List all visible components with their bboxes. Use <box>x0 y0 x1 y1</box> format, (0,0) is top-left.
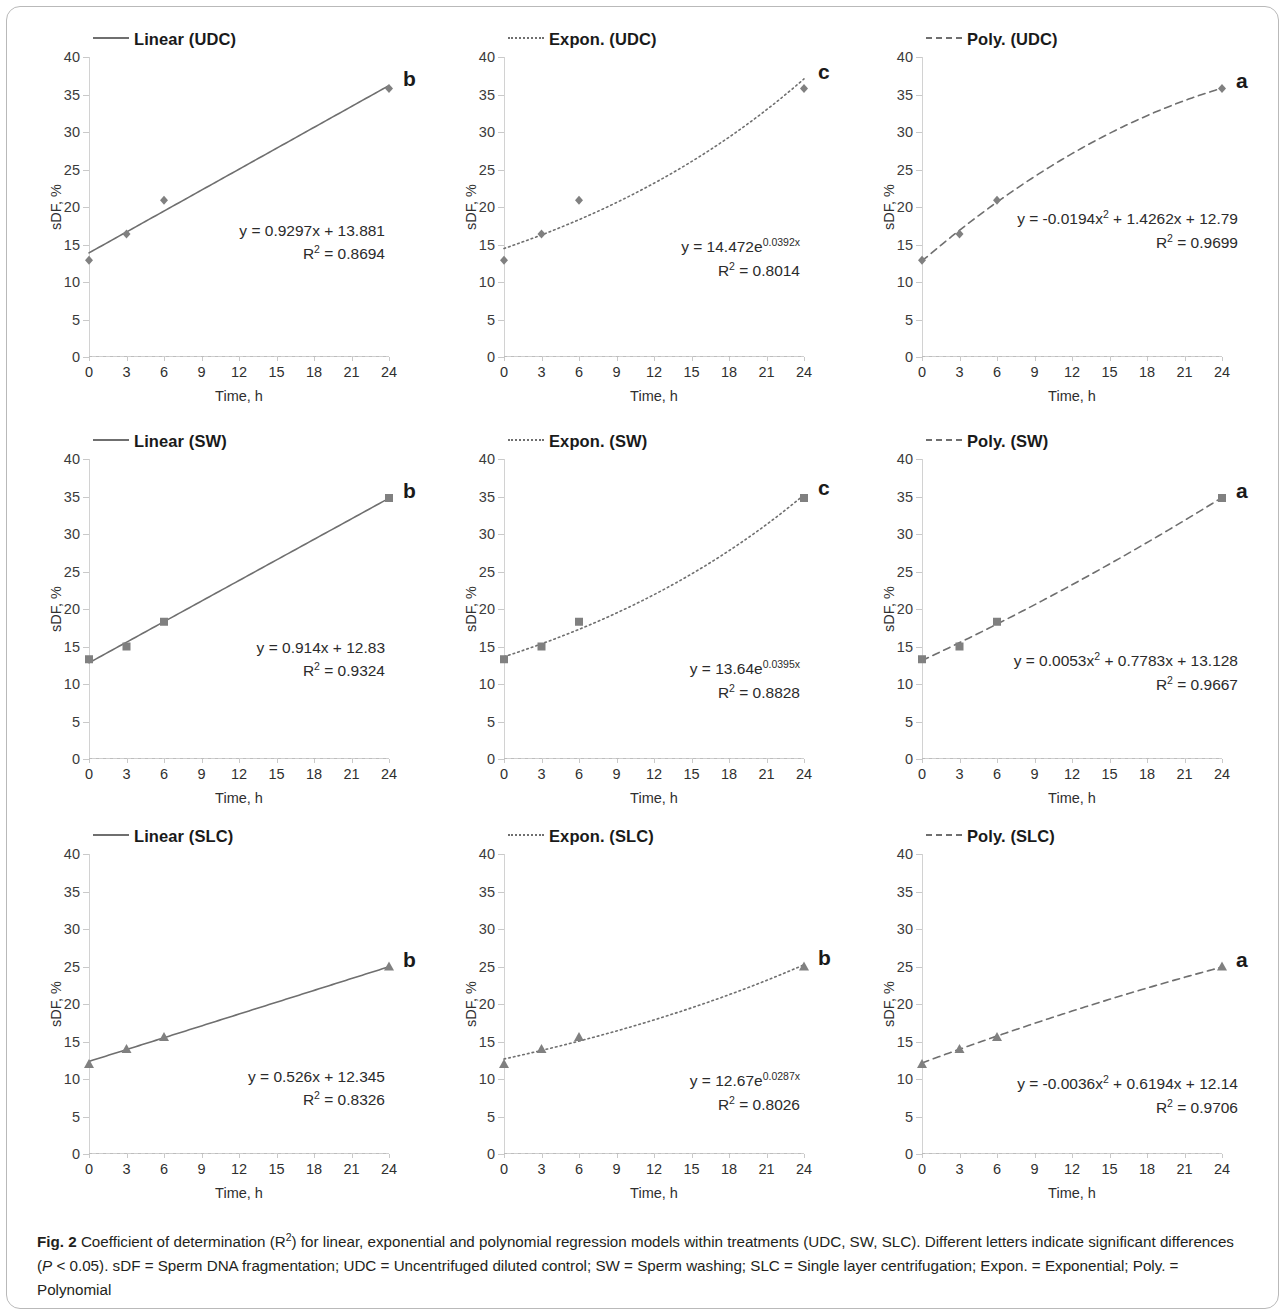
x-axis-tick <box>277 759 278 763</box>
x-axis-tick-label: 9 <box>1030 766 1038 782</box>
y-axis-tick-label: 0 <box>487 1146 495 1162</box>
legend-line-swatch-icon <box>508 439 544 441</box>
x-axis-tick <box>1222 1154 1223 1158</box>
x-axis-tick <box>277 357 278 361</box>
y-axis-tick-label: 35 <box>479 489 495 505</box>
x-axis-tick <box>654 759 655 763</box>
x-axis-tick <box>804 357 805 361</box>
y-axis-tick-label: 20 <box>479 199 495 215</box>
x-axis-tick <box>542 357 543 361</box>
x-axis-tick-label: 0 <box>85 364 93 380</box>
x-axis-tick-label: 21 <box>758 766 774 782</box>
x-axis-tick <box>692 1154 693 1158</box>
y-axis-tick-label: 5 <box>905 1109 913 1125</box>
x-axis-tick-label: 15 <box>268 1161 284 1177</box>
x-axis-tick-label: 12 <box>1064 766 1080 782</box>
legend-line-swatch-icon <box>508 834 544 836</box>
x-axis-tick <box>579 759 580 763</box>
y-axis-tick-label: 10 <box>64 1071 80 1087</box>
x-axis-tick-label: 21 <box>343 766 359 782</box>
plot-area-expon-sw: 403530252015105003691215182124Time, hsDF… <box>504 459 804 759</box>
y-axis-tick-label: 40 <box>64 846 80 862</box>
x-axis-tick <box>89 759 90 763</box>
x-axis-tick-label: 3 <box>537 1161 545 1177</box>
y-axis-tick-label: 5 <box>72 1109 80 1125</box>
plot-area-expon-slc: 403530252015105003691215182124Time, hsDF… <box>504 854 804 1154</box>
x-axis-tick-label: 18 <box>721 766 737 782</box>
y-axis-tick-label: 5 <box>72 312 80 328</box>
r-squared-line: R2 = 0.9667 <box>1014 673 1238 697</box>
legend-poly-udc: Poly. (UDC) <box>926 29 1058 49</box>
x-axis-tick <box>804 759 805 763</box>
y-axis-title: sDF, % <box>48 981 64 1027</box>
x-axis-tick-label: 21 <box>758 1161 774 1177</box>
x-axis-tick <box>389 357 390 361</box>
x-axis-tick-label: 12 <box>646 1161 662 1177</box>
significance-letter: b <box>403 948 416 972</box>
legend-line-swatch-icon <box>93 37 129 39</box>
y-axis-tick-label: 20 <box>479 601 495 617</box>
x-axis-tick-label: 12 <box>646 364 662 380</box>
plot-area-linear-udc: 403530252015105003691215182124Time, hsDF… <box>89 57 389 357</box>
x-axis-tick <box>767 759 768 763</box>
x-axis-tick-label: 18 <box>721 364 737 380</box>
y-axis-tick-label: 15 <box>64 237 80 253</box>
x-axis-tick <box>1035 759 1036 763</box>
y-axis-tick-label: 5 <box>72 714 80 730</box>
x-axis-tick <box>1110 759 1111 763</box>
y-axis-tick-label: 5 <box>487 312 495 328</box>
x-axis-tick <box>922 357 923 361</box>
x-axis-tick <box>997 357 998 361</box>
x-axis-tick-label: 24 <box>381 1161 397 1177</box>
r-squared-line: R2 = 0.9699 <box>1017 231 1238 255</box>
x-axis-tick-label: 0 <box>500 364 508 380</box>
y-axis-tick-label: 40 <box>64 49 80 65</box>
x-axis-tick-label: 9 <box>197 1161 205 1177</box>
y-axis-tick-label: 40 <box>897 49 913 65</box>
y-axis-tick-label: 25 <box>897 162 913 178</box>
x-axis-tick-label: 3 <box>955 1161 963 1177</box>
x-axis-tick-label: 24 <box>381 766 397 782</box>
significance-letter: b <box>403 479 416 503</box>
x-axis-tick <box>202 759 203 763</box>
x-axis-tick <box>1222 759 1223 763</box>
regression-equation: y = 12.67e0.0287xR2 = 0.8026 <box>690 1069 800 1116</box>
x-axis-tick <box>1222 357 1223 361</box>
y-axis-tick-label: 30 <box>897 124 913 140</box>
y-axis-tick-label: 10 <box>897 1071 913 1087</box>
x-axis-tick <box>1147 357 1148 361</box>
y-axis-tick-label: 10 <box>479 274 495 290</box>
x-axis-tick <box>389 759 390 763</box>
legend-label: Poly. (SLC) <box>967 827 1055 846</box>
x-axis-tick-label: 0 <box>500 766 508 782</box>
chart-expon-slc: Expon. (SLC)4035302520151050036912151821… <box>432 812 852 1212</box>
legend-poly-slc: Poly. (SLC) <box>926 826 1055 846</box>
x-axis-tick-label: 9 <box>1030 1161 1038 1177</box>
y-axis-title: sDF, % <box>881 586 897 632</box>
x-axis-tick <box>127 759 128 763</box>
x-axis-tick-label: 15 <box>683 364 699 380</box>
x-axis-tick <box>504 1154 505 1158</box>
x-axis-tick <box>1035 357 1036 361</box>
x-axis-tick <box>1072 357 1073 361</box>
y-axis-tick-label: 10 <box>897 676 913 692</box>
x-axis-tick-label: 0 <box>918 364 926 380</box>
r-squared-line: R2 = 0.8014 <box>681 259 800 283</box>
y-axis-tick-label: 35 <box>897 87 913 103</box>
regression-equation: y = -0.0036x2 + 0.6194x + 12.14R2 = 0.97… <box>1017 1072 1238 1119</box>
significance-letter: c <box>818 476 830 500</box>
y-axis-tick-label: 0 <box>72 1146 80 1162</box>
y-axis-tick-label: 30 <box>479 526 495 542</box>
y-axis-tick-label: 5 <box>905 714 913 730</box>
series-layer <box>504 459 804 759</box>
x-axis-tick <box>1110 357 1111 361</box>
significance-letter: b <box>818 946 831 970</box>
x-axis-tick-label: 3 <box>537 766 545 782</box>
y-axis-tick-label: 20 <box>64 199 80 215</box>
y-axis-tick-label: 10 <box>479 1071 495 1087</box>
x-axis-tick <box>922 759 923 763</box>
x-axis-tick-label: 24 <box>796 1161 812 1177</box>
significance-letter: b <box>403 67 416 91</box>
y-axis-tick-label: 15 <box>479 639 495 655</box>
x-axis-tick <box>960 759 961 763</box>
